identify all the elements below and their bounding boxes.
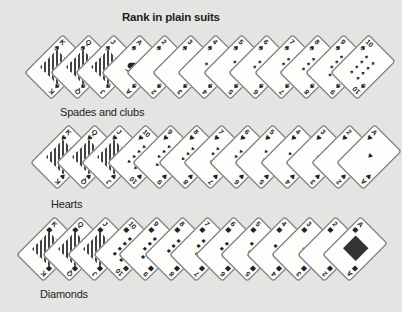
spade-icon: ♠ <box>358 81 368 91</box>
row-caption-diamonds: Diamonds <box>40 288 88 300</box>
diamond-icon: ■ <box>350 225 360 235</box>
pip-layout: ♠♠♠♠♠♠♠♠ <box>347 51 380 84</box>
diamond-icon: ■ <box>350 263 360 273</box>
diamond-icon <box>343 236 368 261</box>
